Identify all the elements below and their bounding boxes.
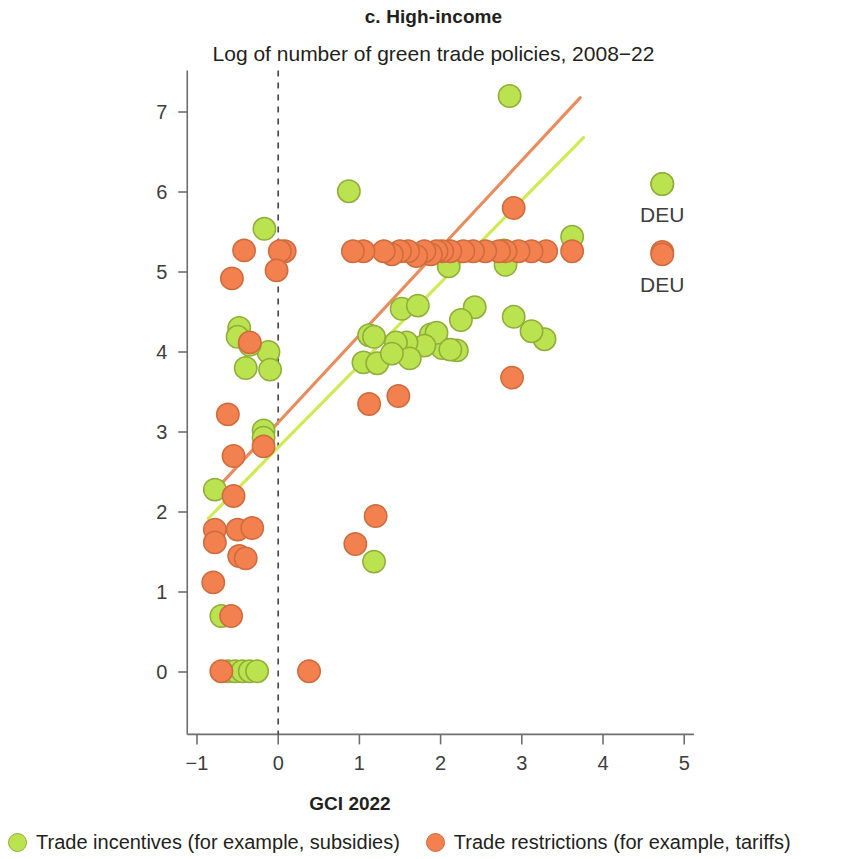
data-point-restrictions — [235, 547, 257, 569]
data-point-incentives — [439, 338, 461, 360]
data-point-restrictions — [221, 267, 243, 289]
data-point-incentives — [520, 320, 542, 342]
x-axis-tick-label: −1 — [186, 752, 209, 774]
data-point-restrictions — [342, 240, 364, 262]
data-point-incentives — [498, 85, 520, 107]
legend-swatch-green-circle-icon — [8, 833, 27, 852]
y-axis-tick-label: 6 — [156, 181, 167, 203]
scatter-plot: 01234567−1012345DEUDEU — [0, 0, 867, 859]
y-axis-tick-label: 4 — [156, 341, 167, 363]
data-point-restrictions — [210, 660, 232, 682]
data-point-restrictions — [373, 240, 395, 262]
chart-legend: Trade incentives (for example, subsidies… — [8, 832, 791, 852]
y-axis-tick-label: 1 — [156, 581, 167, 603]
data-point-incentives — [363, 326, 385, 348]
data-point-incentives — [450, 309, 472, 331]
x-axis-tick-label: 2 — [435, 752, 446, 774]
data-point-incentives — [235, 357, 257, 379]
x-axis-tick-label: 4 — [597, 752, 608, 774]
point-label-deu: DEU — [640, 273, 684, 296]
data-point-incentives — [407, 294, 429, 316]
legend-label-incentives: Trade incentives (for example, subsidies… — [36, 832, 400, 852]
data-point-restrictions — [344, 533, 366, 555]
legend-item-restrictions[interactable]: Trade restrictions (for example, tariffs… — [426, 832, 791, 852]
data-point-incentives — [253, 218, 275, 240]
data-point-restrictions — [241, 517, 263, 539]
data-point-restrictions — [202, 571, 224, 593]
data-point-incentives — [246, 660, 268, 682]
y-axis-tick-label: 2 — [156, 501, 167, 523]
point-label-deu: DEU — [640, 203, 684, 226]
data-point-restrictions — [364, 505, 386, 527]
y-axis-tick-label: 3 — [156, 421, 167, 443]
data-point-restrictions — [265, 259, 287, 281]
legend-item-incentives[interactable]: Trade incentives (for example, subsidies… — [8, 832, 400, 852]
chart-figure: c. High-income Log of number of green tr… — [0, 0, 867, 859]
data-point-restrictions-deu — [651, 243, 673, 265]
data-point-restrictions — [387, 385, 409, 407]
data-point-restrictions — [298, 660, 320, 682]
data-point-restrictions — [222, 485, 244, 507]
data-point-restrictions — [358, 393, 380, 415]
annotations-group: DEUDEU — [640, 173, 684, 296]
y-axis-tick-label: 5 — [156, 261, 167, 283]
legend-swatch-orange-circle-icon — [426, 833, 445, 852]
y-axis-tick-label: 7 — [156, 101, 167, 123]
x-axis-tick-label: 5 — [679, 752, 690, 774]
data-point-restrictions — [239, 331, 261, 353]
data-point-incentives — [381, 342, 403, 364]
x-axis-tick-label: 3 — [516, 752, 527, 774]
data-points-group — [202, 85, 673, 683]
data-point-restrictions — [204, 531, 226, 553]
data-point-restrictions — [220, 605, 242, 627]
data-point-restrictions — [222, 445, 244, 467]
y-axis-tick-label: 0 — [156, 661, 167, 683]
data-point-restrictions — [252, 435, 274, 457]
data-point-restrictions — [502, 197, 524, 219]
data-point-restrictions — [233, 239, 255, 261]
data-point-incentives-deu — [651, 173, 673, 195]
x-axis-title: GCI 2022 — [0, 793, 700, 815]
legend-label-restrictions: Trade restrictions (for example, tariffs… — [454, 832, 791, 852]
x-axis-tick-label: 1 — [354, 752, 365, 774]
data-point-restrictions — [501, 366, 523, 388]
data-point-restrictions — [217, 403, 239, 425]
data-point-incentives — [502, 306, 524, 328]
data-point-incentives — [259, 358, 281, 380]
data-point-incentives — [338, 180, 360, 202]
x-axis-tick-label: 0 — [273, 752, 284, 774]
data-point-restrictions — [561, 240, 583, 262]
data-point-incentives — [363, 550, 385, 572]
